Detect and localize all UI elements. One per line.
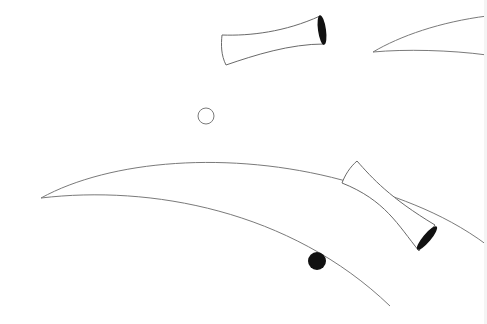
scene-canvas bbox=[0, 0, 487, 324]
bone-right[interactable] bbox=[342, 161, 440, 252]
hollow-ball[interactable] bbox=[198, 108, 214, 124]
bone-top[interactable] bbox=[221, 15, 328, 65]
filled-ball[interactable] bbox=[308, 252, 326, 270]
crescent-top-right bbox=[373, 16, 487, 55]
